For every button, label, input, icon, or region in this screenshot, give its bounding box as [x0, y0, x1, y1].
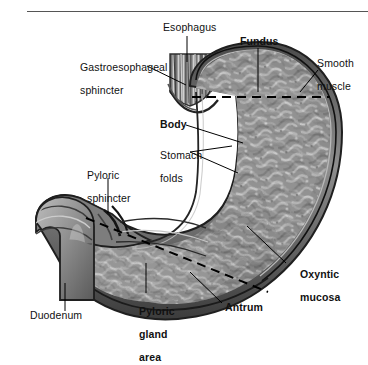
label-esophagus: Esophagus	[163, 22, 216, 34]
label-line: area	[139, 351, 161, 363]
label-line: sphincter	[87, 192, 131, 204]
label-antrum: Antrum	[225, 302, 263, 314]
label-line: mucosa	[300, 291, 340, 303]
label-line: Gastroesophageal	[80, 61, 167, 73]
label-stomach-folds: Stomach folds	[148, 138, 202, 196]
label-oxyntic-mucosa: Oxyntic mucosa	[288, 257, 340, 315]
label-line: folds	[160, 172, 183, 184]
label-gastroesophageal-sphincter: Gastroesophageal sphincter	[68, 50, 168, 108]
label-line: gland	[139, 328, 168, 340]
label-line: Stomach	[160, 149, 202, 161]
label-line: sphincter	[80, 84, 124, 96]
label-duodenum: Duodenum	[30, 310, 82, 322]
label-line: Oxyntic	[300, 268, 339, 280]
label-smooth-muscle: Smooth muscle	[305, 46, 354, 104]
label-body: Body	[160, 119, 187, 131]
label-line: Smooth	[317, 57, 354, 69]
label-line: muscle	[317, 80, 351, 92]
label-line: Pyloric	[87, 169, 119, 181]
label-pyloric-gland-area: Pyloric gland area	[127, 294, 175, 365]
label-pyloric-sphincter: Pyloric sphincter	[75, 158, 131, 216]
label-fundus: Fundus	[240, 36, 279, 48]
label-line: Pyloric	[139, 305, 175, 317]
